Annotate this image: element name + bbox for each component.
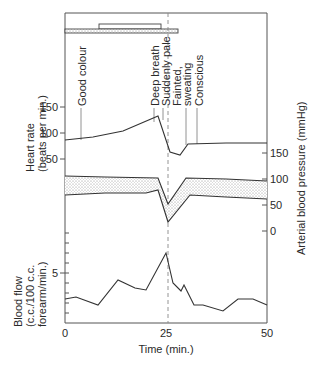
bp-tick-0: 0: [270, 225, 276, 237]
upper-event-bar: [99, 24, 161, 29]
event-conscious: Conscious: [193, 54, 205, 106]
bf-ylabel-3: forearm/min.): [36, 262, 48, 327]
heart-rate-axis: 150 100 50 Heart rate (beats per min.): [24, 95, 65, 172]
event-bars: [65, 24, 178, 33]
chart-figure: Good colour Deep breath Suddenly pale Fa…: [0, 0, 313, 365]
event-sweating: sweating: [181, 63, 193, 106]
blood-flow-axis: 5 Blood flow (c.c./100 c.c. forearm/min.…: [12, 233, 69, 327]
bf-tick-5: 5: [52, 267, 58, 279]
bp-tick-150: 150: [270, 147, 288, 159]
x-axis-label: Time (min.): [138, 343, 193, 355]
heart-rate-line: [65, 116, 267, 155]
bp-ylabel: Arterial blood pressure (mmHg): [295, 102, 307, 255]
bp-tick-100: 100: [270, 173, 288, 185]
bp-axis: 150 100 50 0 Arterial blood pressure (mm…: [262, 102, 307, 255]
bf-ylabel-1: Blood flow: [12, 276, 24, 327]
lower-event-bar: [65, 29, 178, 33]
bf-ylabel-2: (c.c./100 c.c.: [24, 265, 36, 327]
x-tick-0: 0: [62, 327, 68, 339]
event-annotations: Good colour Deep breath Suddenly pale Fa…: [76, 36, 205, 145]
hr-ylabel-2: (beats per min.): [36, 95, 48, 172]
hr-ylabel-1: Heart rate: [24, 123, 36, 172]
bp-tick-50: 50: [270, 199, 282, 211]
x-tick-50: 50: [261, 327, 273, 339]
event-good-colour: Good colour: [76, 46, 88, 106]
x-tick-25: 25: [160, 327, 172, 339]
x-axis: 0 25 50 Time (min.): [62, 327, 273, 355]
blood-flow-line: [65, 253, 267, 311]
